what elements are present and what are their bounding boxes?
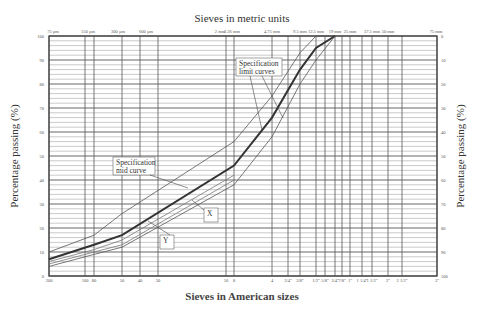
x-tick-bottom: 30 [156, 278, 161, 283]
x-tick-bottom: 80 [92, 278, 97, 283]
y-tick-right: 40 [441, 130, 446, 135]
y-tick-left: 100 [37, 34, 45, 39]
y-tick-left: 10 [40, 250, 45, 255]
x-tick-top: 600 µm [139, 29, 153, 34]
y-tick-left: 60 [40, 130, 45, 135]
y-tick-left: 50 [40, 154, 45, 159]
x-tick-bottom: 2 1/2" [397, 278, 408, 283]
y-tick-right: 100 [441, 274, 449, 279]
x-tick-bottom: 3/8" [296, 278, 304, 283]
x-tick-bottom: 1" [348, 278, 352, 283]
x-tick-top: 19 mm [329, 29, 342, 34]
x-tick-top: 4.75 mm [264, 29, 281, 34]
y-tick-right: 20 [441, 82, 446, 87]
x-tick-top: 9.5 mm [293, 29, 307, 34]
callouts: Specificationlimit curvesSpecificationmi… [113, 58, 283, 249]
x-axis-label: Sieves in American sizes [0, 290, 484, 302]
y-tick-left: 80 [40, 82, 45, 87]
callout-y: Y [160, 235, 174, 249]
x-tick-bottom: 4 [271, 278, 274, 283]
y-tick-right: 50 [441, 154, 446, 159]
x-tick-bottom: 10 [224, 278, 229, 283]
y-tick-right: 0 [441, 34, 444, 39]
x-tick-bottom: 100 [82, 278, 90, 283]
svg-text:limit curves: limit curves [239, 67, 275, 76]
y-tick-left: 40 [40, 178, 45, 183]
y-tick-right: 60 [441, 178, 446, 183]
svg-text:X: X [207, 209, 213, 218]
x-tick-bottom: 2" [386, 278, 390, 283]
y-tick-left: 70 [40, 106, 45, 111]
x-tick-top: 300 µm [111, 29, 125, 34]
y-tick-right: 10 [441, 58, 446, 63]
x-tick-top: 50 mm [382, 29, 395, 34]
y-tick-left: 0 [42, 274, 45, 279]
svg-text:Y: Y [163, 236, 169, 245]
x-tick-top: 150 µm [81, 29, 95, 34]
y-axis-label-left: Percentage passing (%) [8, 104, 20, 207]
y-tick-left: 90 [40, 58, 45, 63]
x-tick-bottom: 8 [233, 278, 236, 283]
x-tick-bottom: 5/8" [321, 278, 329, 283]
y-tick-left: 30 [40, 202, 45, 207]
x-tick-top: 25 mm [344, 29, 357, 34]
x-tick-top: 75 µm [47, 29, 59, 34]
callout-limit-curves: Specificationlimit curves [236, 58, 282, 76]
y-tick-right: 90 [441, 250, 446, 255]
x-tick-top: 37.5 mm [364, 29, 381, 34]
chart-title: Sieves in metric units [0, 12, 484, 24]
svg-text:mid curve: mid curve [116, 166, 147, 175]
gradation-chart: 0102030405060708090100010203040506070809… [0, 0, 484, 313]
curve-0 [49, 36, 335, 252]
y-axis-label-right: Percentage passing (%) [454, 104, 466, 207]
y-tick-right: 80 [441, 226, 446, 231]
x-tick-bottom: 40 [138, 278, 143, 283]
callout-mid-curve: Specificationmid curve [113, 157, 156, 175]
y-tick-right: 30 [441, 106, 446, 111]
y-tick-left: 20 [40, 226, 45, 231]
x-tick-top: 12.5 mm [308, 29, 325, 34]
x-tick-bottom: 7/8" [338, 278, 346, 283]
y-tick-right: 70 [441, 202, 446, 207]
x-tick-bottom: 3" [435, 278, 439, 283]
x-tick-bottom: 3/4" [284, 278, 292, 283]
x-tick-bottom: 1/2" [312, 278, 320, 283]
x-tick-bottom: 1 1/2" [367, 278, 378, 283]
callout-x: X [204, 208, 218, 222]
x-tick-top: 2.36 mm [224, 29, 241, 34]
x-tick-bottom: 200 [46, 278, 54, 283]
x-tick-top: 75 mm [430, 29, 443, 34]
x-tick-bottom: 50 [120, 278, 125, 283]
